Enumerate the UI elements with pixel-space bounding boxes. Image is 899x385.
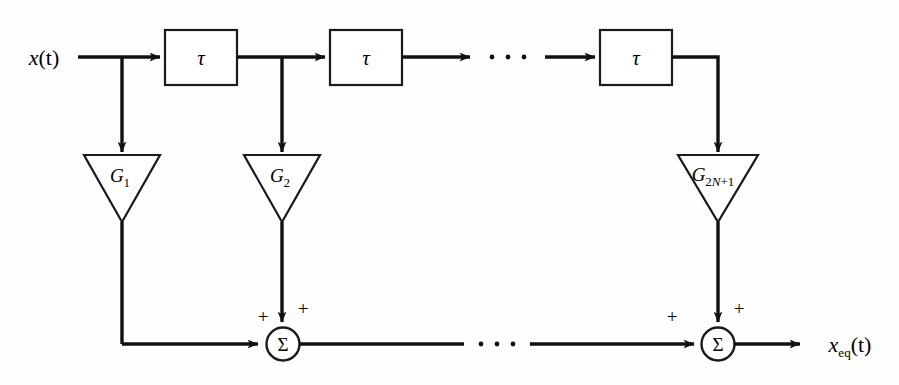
- summer-1-plus-vertical: +: [298, 298, 309, 319]
- output-signal-label: xeq(t): [828, 332, 872, 360]
- input-signal-label: x(t): [28, 45, 60, 70]
- delay-block-3: τ: [600, 30, 672, 85]
- tapped-delay-line-diagram: τ τ τ G1: [0, 0, 899, 385]
- summer-2-plus-vertical: +: [734, 298, 745, 319]
- summer-2: Σ: [702, 328, 735, 361]
- gain-triangle-2: G2: [244, 155, 320, 222]
- delay-block-2: τ: [330, 30, 402, 85]
- block-diagram-canvas: τ τ τ G1: [0, 0, 899, 385]
- summer-1: Σ: [267, 328, 300, 361]
- wire-delay3-to-last-gain: [672, 57, 718, 152]
- bottom-ellipsis: [479, 342, 516, 347]
- gain-triangle-1: G1: [84, 155, 160, 222]
- summer-1-label: Σ: [277, 334, 288, 355]
- delay-block-1: τ: [165, 30, 237, 85]
- summer-2-label: Σ: [712, 334, 723, 355]
- gain-triangle-last: G2N+1: [678, 155, 758, 222]
- summer-2-plus-horizontal: +: [667, 306, 678, 327]
- top-ellipsis: [490, 55, 527, 60]
- summer-1-plus-horizontal: +: [258, 306, 269, 327]
